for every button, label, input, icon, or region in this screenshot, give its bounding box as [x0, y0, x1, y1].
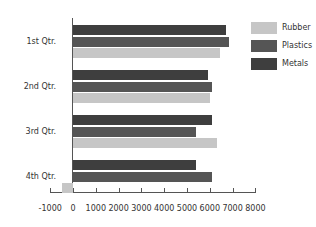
x-tick-label: -1000 [39, 204, 62, 213]
x-tick [141, 188, 142, 193]
category-label: 1st Qtr. [0, 37, 56, 46]
x-tick [233, 188, 234, 193]
x-tick [210, 188, 211, 193]
x-tick-label: 7000 [222, 204, 242, 213]
bar-metals [73, 70, 208, 80]
legend-label-plastics: Plastics [282, 41, 312, 50]
x-tick [119, 188, 120, 193]
x-tick [255, 188, 256, 193]
bar-rubber [73, 93, 210, 103]
legend-label-metals: Metals [282, 59, 308, 68]
legend-swatch-plastics [251, 40, 277, 52]
legend-label-rubber: Rubber [282, 23, 311, 32]
legend-swatch-metals [251, 58, 277, 70]
x-tick-label: 3000 [131, 204, 151, 213]
category-label: 2nd Qtr. [0, 82, 56, 91]
bar-plastics [73, 37, 229, 47]
x-tick [50, 188, 51, 193]
x-tick-label: 8000 [245, 204, 265, 213]
bar-metals [73, 160, 196, 170]
category-label: 4th Qtr. [0, 172, 56, 181]
x-axis-line [50, 192, 256, 193]
x-tick-label: 4000 [154, 204, 174, 213]
bar-rubber [73, 138, 217, 148]
category-label: 3rd Qtr. [0, 127, 56, 136]
bar-plastics [73, 82, 212, 92]
x-tick-label: 2000 [108, 204, 128, 213]
x-tick [96, 188, 97, 193]
bar-metals [73, 115, 212, 125]
bar-plastics [73, 127, 196, 137]
x-tick-label: 5000 [177, 204, 197, 213]
x-tick [73, 188, 74, 193]
x-tick-label: 1000 [86, 204, 106, 213]
x-tick [187, 188, 188, 193]
x-tick-label: 0 [70, 204, 75, 213]
bar-rubber [62, 183, 73, 193]
bar-rubber [73, 48, 220, 58]
x-tick [164, 188, 165, 193]
bar-chart: -1000010002000300040005000600070008000 1… [0, 0, 316, 227]
legend-swatch-rubber [251, 22, 277, 34]
x-tick-label: 6000 [200, 204, 220, 213]
bar-plastics [73, 172, 212, 182]
bar-metals [73, 25, 226, 35]
